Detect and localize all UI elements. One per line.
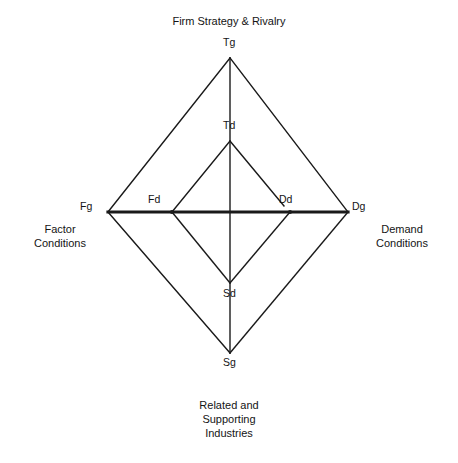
vertex-label-sg: Sg [223,356,236,368]
caption-firm-strategy-rivalry: Firm Strategy & Rivalry [0,14,458,28]
edge-Td-Dd [230,141,284,206]
vertex-marker-Dd [288,210,292,214]
caption-related-supporting-industries: Related and Supporting Industries [0,398,458,440]
caption-factor-conditions: Factor Conditions [12,222,108,250]
edge-Fg-Sg [108,212,230,353]
edge-Tg-Dg [230,58,348,212]
vertex-label-tg: Tg [223,36,235,48]
edge-Fd-Sd [172,212,230,283]
edge-Dg-Sg [230,212,348,353]
vertex-label-sd: Sd [223,287,236,299]
vertex-label-fd: Fd [148,193,160,205]
edge-Dd-Sd [230,212,290,283]
vertex-label-td: Td [223,119,235,131]
vertex-label-dd: Dd [279,193,292,205]
vertex-label-dg: Dg [352,200,365,212]
vertex-label-fg: Fg [80,200,92,212]
edge-Td-Fd [172,141,230,212]
porter-diamond-diagram: Firm Strategy & Rivalry Factor Condition… [0,0,458,463]
caption-demand-conditions: Demand Conditions [352,222,452,250]
vertex-marker-Fd [170,210,174,214]
edge-Tg-Fg [108,58,230,212]
